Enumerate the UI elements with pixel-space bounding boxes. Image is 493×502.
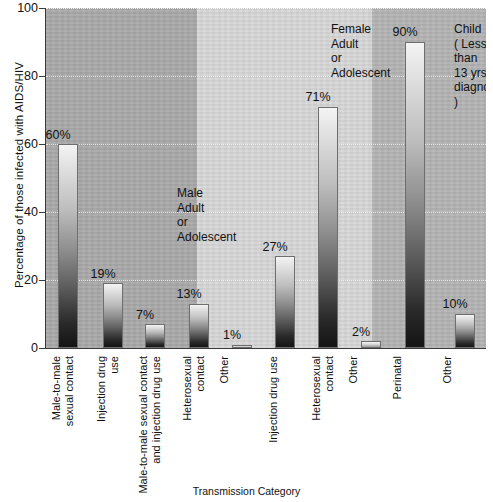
y-tick-label-0: 0 [4,343,38,353]
y-tick-label-40: 40 [4,207,38,217]
bar-male-injection-drug-use[interactable] [103,283,123,348]
x-category-label-male-to-male-and-injection: Male-to-male sexual contact and injectio… [137,356,155,502]
x-category-label-injection-drug-use-male: Injection drug use [95,356,113,502]
bar-value-label-13: 13% [166,288,212,300]
x-category-label-male-to-male-sexual-contact: Male-to-male sexual contact [50,356,68,502]
x-category-label-other-child: Other [441,356,459,502]
x-category-label-perinatal: Perinatal [391,356,409,502]
y-tick-label-60: 60 [4,139,38,149]
bar-male-male-to-male-and-injection-drug-use[interactable] [145,324,165,348]
bar-value-label-7: 7% [122,309,168,321]
x-axis-title: Transmission Category [0,485,493,497]
bar-male-heterosexual-contact[interactable] [189,304,209,348]
bar-child-other[interactable] [455,314,475,348]
bar-value-label-10: 10% [432,298,478,310]
x-category-label-other-male: Other [218,356,236,502]
x-category-label-other-female: Other [347,356,365,502]
bar-child-perinatal[interactable] [405,42,425,348]
bar-female-heterosexual-contact[interactable] [318,107,338,348]
x-category-label-heterosexual-contact-male: Heterosexual contact [181,356,199,502]
x-category-label-injection-drug-use-female: Injection drug use [267,356,285,502]
panel-caption-male: Male Adult or Adolescent [177,186,236,244]
bar-value-label-60: 60% [35,129,81,141]
bar-value-label-27: 27% [252,241,298,253]
bar-value-label-1: 1% [209,329,255,341]
y-tick-label-100: 100 [4,3,38,13]
bar-female-other[interactable] [361,341,381,348]
bar-female-injection-drug-use[interactable] [275,256,295,348]
bar-male-male-to-male-sexual-contact[interactable] [58,144,78,348]
panel-caption-child: Child ( Less than 13 yrs at diagnosis ) [454,22,486,109]
bar-chart: Percentage of those infected with AIDS/H… [0,0,493,502]
bar-male-other[interactable] [232,345,252,348]
plot-area: Male Adult or Adolescent Female Adult or… [46,8,486,348]
gridline-100 [46,8,486,9]
x-axis-line [45,348,486,349]
bar-value-label-90: 90% [382,26,428,38]
y-tick-label-20: 20 [4,275,38,285]
bar-value-label-19: 19% [80,268,126,280]
bar-value-label-71: 71% [295,91,341,103]
x-category-label-heterosexual-contact-female: Heterosexual contact [310,356,328,502]
bar-value-label-2: 2% [338,326,384,338]
y-tick-label-80: 80 [4,71,38,81]
